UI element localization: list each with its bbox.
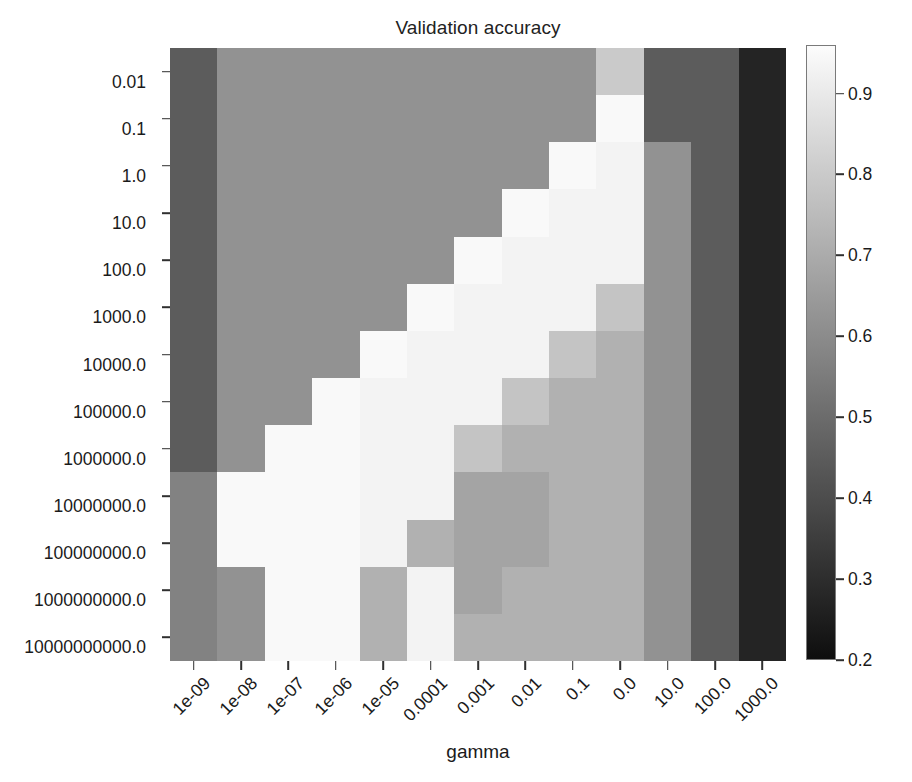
heatmap-cell (596, 425, 643, 472)
heatmap-cell (644, 425, 691, 472)
colorbar-tick-label: 0.2 (848, 650, 872, 671)
heatmap-cell (360, 189, 407, 236)
heatmap-cell (644, 142, 691, 189)
heatmap-cell (360, 614, 407, 661)
heatmap-cell (691, 95, 738, 142)
heatmap-cell (312, 378, 359, 425)
heatmap-cell (360, 567, 407, 614)
heatmap-cell (596, 237, 643, 284)
heatmap-cell (265, 48, 312, 95)
heatmap-cell (407, 614, 454, 661)
y-tick-mark (162, 307, 170, 309)
heatmap-cell (312, 189, 359, 236)
heatmap-cell (360, 425, 407, 472)
heatmap-cell (454, 237, 501, 284)
heatmap-cell (549, 189, 596, 236)
heatmap-cell (265, 567, 312, 614)
heatmap-cell (407, 425, 454, 472)
heatmap-cell (644, 48, 691, 95)
heatmap-cell (691, 472, 738, 519)
heatmap-cell (454, 95, 501, 142)
colorbar: 0.90.80.70.60.50.40.30.2 (806, 45, 906, 665)
heatmap-cell (217, 520, 264, 567)
heatmap-cell (454, 48, 501, 95)
heatmap-cell (454, 472, 501, 519)
heatmap-cell (312, 567, 359, 614)
colorbar-tick-mark (836, 336, 844, 338)
heatmap-cell (454, 520, 501, 567)
heatmap-cell (170, 472, 217, 519)
heatmap-cell (312, 425, 359, 472)
heatmap-cell (502, 48, 549, 95)
y-tick-mark (162, 542, 170, 544)
heatmap-cell (691, 48, 738, 95)
heatmap-cell (502, 567, 549, 614)
heatmap-cell (502, 95, 549, 142)
heatmap-cell (596, 331, 643, 378)
heatmap-cell (170, 237, 217, 284)
colorbar-gradient (806, 45, 836, 660)
x-tick-mark (288, 661, 290, 670)
heatmap-cell (217, 142, 264, 189)
heatmap-cell (407, 520, 454, 567)
heatmap-cell (170, 284, 217, 331)
colorbar-tick-mark (836, 174, 844, 176)
heatmap-cell (502, 520, 549, 567)
heatmap-cell (596, 95, 643, 142)
heatmap-cell (454, 189, 501, 236)
heatmap-cell (502, 189, 549, 236)
x-tick-mark (525, 661, 527, 670)
y-tick-mark (162, 637, 170, 639)
page-title: Validation accuracy (170, 17, 786, 39)
heatmap-cell (265, 378, 312, 425)
heatmap-cell (549, 520, 596, 567)
y-tick-mark (162, 589, 170, 591)
colorbar-tick-label: 0.3 (848, 569, 872, 590)
heatmap-cell (739, 378, 786, 425)
heatmap-cell (644, 614, 691, 661)
heatmap-grid (170, 48, 786, 661)
heatmap-cell (312, 95, 359, 142)
heatmap-cell (691, 425, 738, 472)
heatmap-cell (549, 567, 596, 614)
heatmap-cell (360, 331, 407, 378)
heatmap-cell (739, 425, 786, 472)
heatmap-cell (739, 472, 786, 519)
heatmap-cell (312, 520, 359, 567)
heatmap-cell (312, 142, 359, 189)
heatmap-cell (312, 472, 359, 519)
heatmap-cell (691, 520, 738, 567)
x-tick-label: 1e-09 (168, 673, 215, 720)
colorbar-tick-mark (836, 659, 844, 661)
heatmap-cell (360, 237, 407, 284)
y-tick-mark (162, 165, 170, 167)
heatmap-cell (691, 284, 738, 331)
x-tick-label: 1000.0 (730, 673, 783, 726)
heatmap-cell (265, 284, 312, 331)
heatmap-cell (360, 378, 407, 425)
heatmap-cell (549, 378, 596, 425)
heatmap-cell (502, 142, 549, 189)
heatmap-cell (360, 472, 407, 519)
colorbar-tick-mark (836, 255, 844, 257)
heatmap-cell (217, 614, 264, 661)
heatmap-cell (644, 237, 691, 284)
x-tick-mark (193, 661, 195, 670)
heatmap-cell (217, 284, 264, 331)
colorbar-tick-label: 0.4 (848, 488, 872, 509)
heatmap-cell (217, 567, 264, 614)
heatmap-cell (170, 425, 217, 472)
heatmap-cell (407, 567, 454, 614)
heatmap-cell (170, 48, 217, 95)
heatmap-cell (170, 95, 217, 142)
colorbar-tick-label: 0.8 (848, 164, 872, 185)
heatmap-cell (691, 567, 738, 614)
heatmap-cell (691, 237, 738, 284)
heatmap-cell (407, 331, 454, 378)
heatmap-cell (170, 567, 217, 614)
heatmap-cell (265, 142, 312, 189)
heatmap-cell (265, 614, 312, 661)
heatmap-cell (691, 189, 738, 236)
heatmap-cell (596, 614, 643, 661)
heatmap-cell (217, 425, 264, 472)
